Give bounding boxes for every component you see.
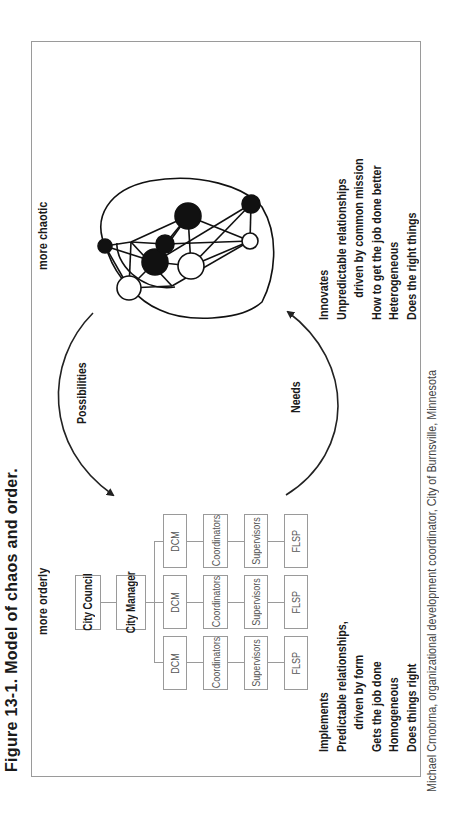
network-node-white xyxy=(117,276,141,300)
network-node-white xyxy=(178,253,204,279)
figure-credit: Michael Crnobrna, organizational develop… xyxy=(425,370,439,792)
network-node-black xyxy=(156,235,174,253)
chaotic-network xyxy=(0,0,455,817)
rotated-figure: Figure 13-1. Model of chaos and order. m… xyxy=(0,0,455,817)
network-node-white xyxy=(242,233,258,249)
network-node-black xyxy=(242,195,260,213)
network-node-black xyxy=(98,239,112,253)
network-node-black xyxy=(175,203,201,229)
